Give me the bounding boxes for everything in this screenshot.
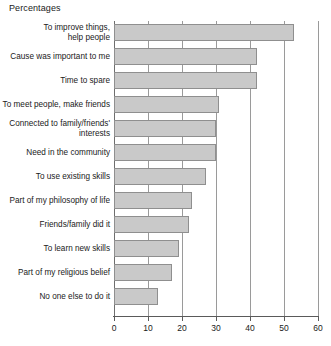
bar-chart: Percentages To improve things, help peop…	[0, 0, 331, 346]
bar	[114, 48, 257, 65]
x-tick-label: 40	[235, 323, 265, 334]
x-tick-label: 60	[303, 323, 331, 334]
category-label: To meet people, make friends	[0, 100, 110, 110]
x-tick-mark	[284, 317, 285, 321]
x-tick-mark	[182, 317, 183, 321]
gridline-60	[318, 21, 319, 317]
category-label: Need in the community	[0, 148, 110, 158]
bar	[114, 168, 206, 185]
bar	[114, 24, 294, 41]
bar-row	[114, 117, 318, 141]
bar-row	[114, 45, 318, 69]
bar-row	[114, 165, 318, 189]
category-label: Part of my philosophy of life	[0, 196, 110, 206]
category-label: Connected to family/friends' interests	[0, 119, 110, 139]
category-label: To use existing skills	[0, 172, 110, 182]
bar-row	[114, 213, 318, 237]
bar-row	[114, 189, 318, 213]
bar-row	[114, 237, 318, 261]
category-label: To improve things, help people	[0, 23, 110, 43]
x-tick-label: 10	[133, 323, 163, 334]
category-axis-labels: To improve things, help peopleCause was …	[0, 21, 110, 317]
category-label: Part of my religious belief	[0, 268, 110, 278]
bar	[114, 120, 216, 137]
category-label: Time to spare	[0, 76, 110, 86]
bar	[114, 192, 192, 209]
x-tick-mark	[216, 317, 217, 321]
x-tick-mark	[250, 317, 251, 321]
x-tick-mark	[114, 317, 115, 321]
bar-row	[114, 285, 318, 309]
x-tick-label: 20	[167, 323, 197, 334]
bar-row	[114, 69, 318, 93]
x-tick-label: 50	[269, 323, 299, 334]
x-tick-label: 30	[201, 323, 231, 334]
bar	[114, 240, 179, 257]
x-tick-label: 0	[99, 323, 129, 334]
x-tick-mark	[148, 317, 149, 321]
bar	[114, 96, 219, 113]
category-label: Friends/family did it	[0, 220, 110, 230]
bar-row	[114, 93, 318, 117]
bar-row	[114, 21, 318, 45]
x-tick-mark	[318, 317, 319, 321]
category-label: To learn new skills	[0, 244, 110, 254]
bar	[114, 216, 189, 233]
bar	[114, 264, 172, 281]
plot-area	[114, 21, 318, 317]
category-label: Cause was important to me	[0, 52, 110, 62]
bar-row	[114, 141, 318, 165]
chart-title: Percentages	[9, 3, 61, 14]
bar-series	[114, 21, 318, 317]
bar	[114, 144, 216, 161]
bar-row	[114, 261, 318, 285]
category-label: No one else to do it	[0, 292, 110, 302]
bar	[114, 72, 257, 89]
bar	[114, 288, 158, 305]
